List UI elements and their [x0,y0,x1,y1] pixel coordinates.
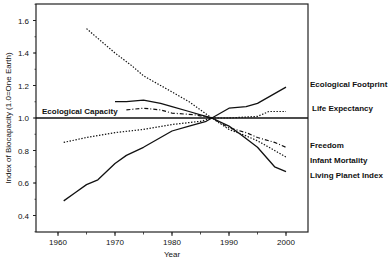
x-axis-title: Year [164,250,181,259]
line-chart: 0.40.60.81.01.21.41.6 196019701980199020… [0,0,391,263]
y-axis: 0.40.60.81.01.21.41.6 [18,4,36,232]
series-life-expectancy [64,112,286,143]
ecological-capacity-label: Ecological Capacity [42,107,118,116]
x-axis: 19601970198019902000 [49,232,295,247]
legend-freedom: Freedom [310,141,344,150]
legend-ecological-footprint: Ecological Footprint [310,80,388,89]
x-tick-label: 1970 [106,238,124,247]
y-tick-label: 1.6 [18,17,30,26]
series-infant-mortality [87,29,287,157]
legend-infant-mortality: Infant Mortality [310,156,368,165]
y-tick-label: 1.2 [18,82,30,91]
x-tick-label: 1960 [49,238,67,247]
legend-life-expectancy: Life Expectancy [312,104,373,113]
x-tick-label: 2000 [277,238,295,247]
y-tick-label: 1.4 [18,49,30,58]
x-tick-label: 1990 [220,238,238,247]
legend-living-planet-index: Living Planet Index [310,171,383,180]
y-tick-label: 1.0 [18,114,30,123]
x-tick-label: 1980 [163,238,181,247]
y-axis-title: Index of Biocapacity (1.0=One Earth) [4,52,13,184]
y-tick-label: 0.8 [18,147,30,156]
y-tick-label: 0.4 [18,212,30,221]
series-living-planet-index [115,100,286,172]
y-tick-label: 0.6 [18,179,30,188]
